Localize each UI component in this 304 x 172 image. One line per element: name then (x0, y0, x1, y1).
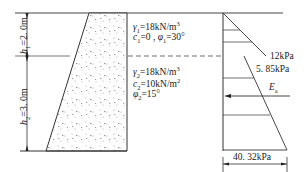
layer2-properties: γ2=18kN/m3 c2=10kN/m2 φ2=15° (133, 66, 180, 102)
pressure-label-5-85kpa: 5. 85kPa (256, 65, 289, 75)
layer2-phi: φ2=15° (133, 90, 180, 102)
h1-label: h1=2. 0m (18, 17, 31, 54)
pressure-label-12kpa: 12kPa (270, 52, 294, 62)
pressure-label-40-32kpa: 40. 32kPa (233, 153, 271, 163)
pressure-upper-hyp (223, 13, 266, 56)
arrow-head-icon (223, 163, 229, 166)
resultant-label-ea: Ea (269, 83, 278, 94)
h2-label: h2=3. 0m (18, 88, 31, 125)
arrow-head-icon (26, 145, 29, 151)
layer2-gamma: γ2=18kN/m3 (133, 66, 180, 78)
resultant-arrow-icon (224, 94, 231, 98)
layer1-c-phi: c1=0 , φ1=30° (133, 33, 185, 45)
layer1-properties: γ1=18kN/m3 c1=0 , φ1=30° (133, 21, 185, 45)
retaining-wall (46, 13, 127, 151)
arrow-head-icon (26, 56, 29, 62)
arrow-head-icon (281, 163, 287, 166)
